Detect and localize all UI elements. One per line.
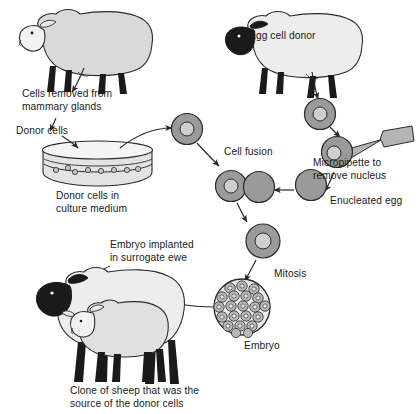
culture-dish-figure [43, 141, 153, 186]
cloning-diagram: Cells removed from mammary glands Donor … [0, 0, 418, 414]
cell-fusion-figure [216, 171, 275, 203]
label-micropipette: Micropipette to remove nucleus [313, 157, 386, 182]
label-cell-fusion: Cell fusion [224, 146, 273, 159]
arrow-egg-to-pipette [330, 127, 340, 137]
fused-cell-figure [246, 224, 280, 258]
label-enucleated-egg: Enucleated egg [330, 195, 402, 208]
label-clone-of-sheep: Clone of sheep that was the source of th… [70, 385, 199, 410]
label-donor-cells-culture: Donor cells in culture medium [56, 190, 127, 215]
donor-cell-figure [172, 114, 203, 145]
label-embryo: Embryo [244, 340, 280, 353]
label-embryo-implanted: Embryo implanted in surrogate ewe [110, 239, 194, 264]
egg-donor-sheep-figure [225, 12, 362, 99]
label-mitosis: Mitosis [274, 268, 306, 281]
label-cells-removed: Cells removed from mammary glands [22, 88, 112, 113]
egg-cell-figure [305, 99, 336, 130]
arrow-mitosis [245, 260, 256, 281]
embryo-figure [214, 279, 270, 338]
label-egg-cell-donor: Egg cell donor [249, 30, 316, 43]
arrow-cell-to-fusion [197, 143, 219, 166]
label-donor-cells: Donor cells [16, 125, 68, 138]
arrow-fusion-to-fused-cell [237, 203, 247, 222]
donor-sheep-figure [19, 10, 152, 95]
